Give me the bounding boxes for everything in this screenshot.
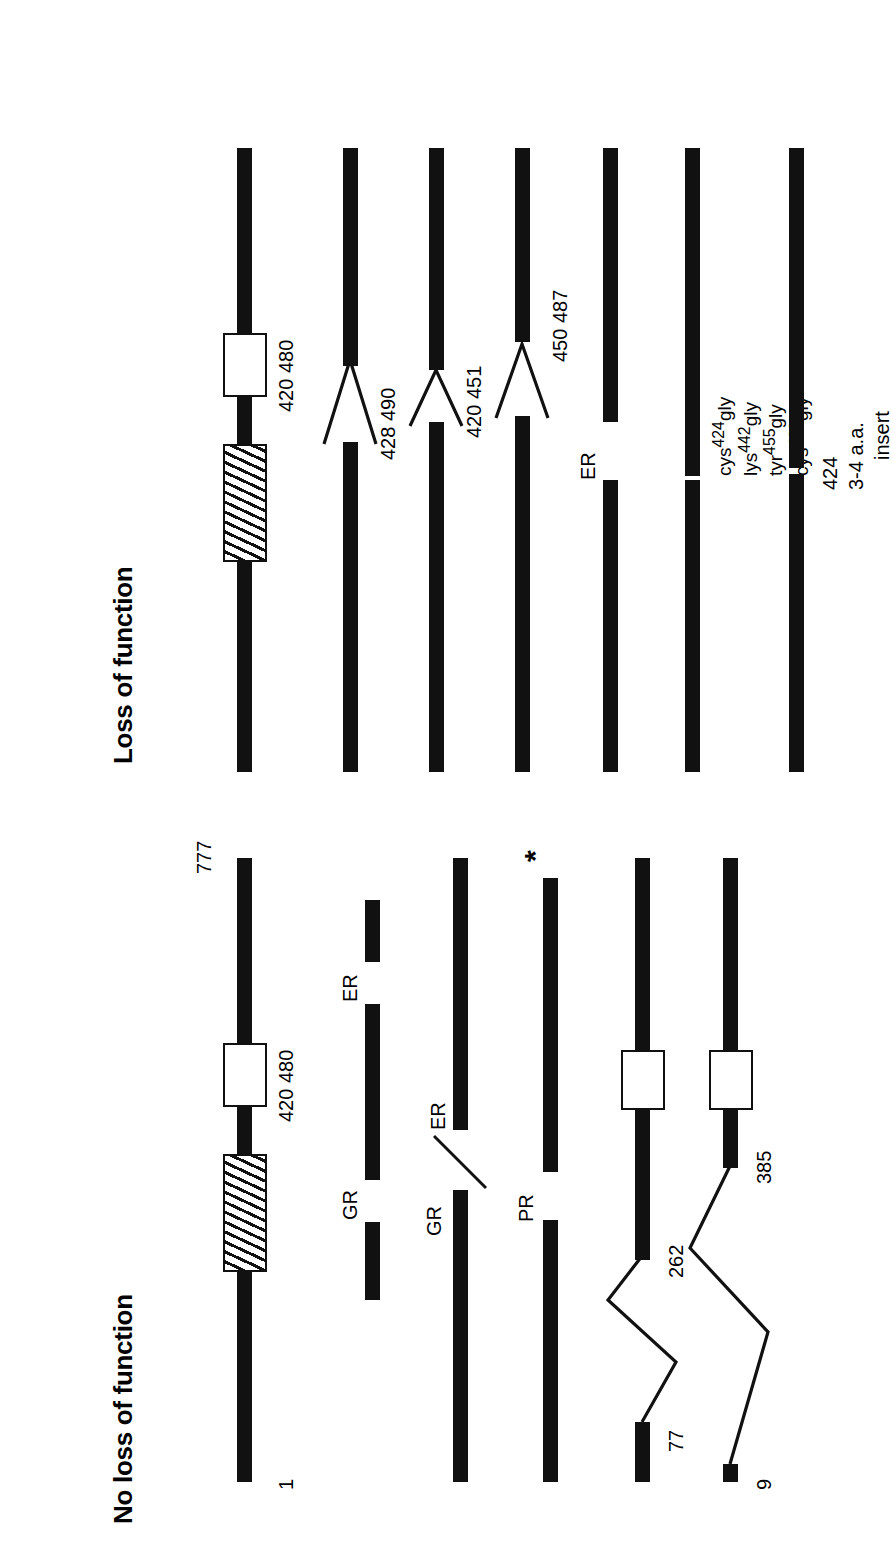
construct-segment xyxy=(635,1422,650,1482)
group-no-loss-of-function: No loss of function 1 777 420 480 GR ER … xyxy=(0,802,862,1562)
construct-segment xyxy=(515,416,530,772)
group-title-no-loss: No loss of function xyxy=(108,1294,139,1524)
label-position-385: 385 xyxy=(754,1151,775,1184)
construct-segment xyxy=(365,900,380,962)
label-c-terminus: 777 xyxy=(194,841,215,874)
construct-segment xyxy=(603,480,618,772)
hatched-domain-box xyxy=(223,444,267,562)
label-er: ER xyxy=(428,1102,449,1130)
group-title-loss: Loss of function xyxy=(108,567,139,764)
construct-segment xyxy=(515,148,530,342)
label-domain-boundaries: 420 480 xyxy=(276,340,297,412)
construct-segment xyxy=(453,1190,468,1482)
construct-segment xyxy=(685,480,700,772)
asterisk-marker-icon: * xyxy=(520,850,550,862)
construct-segment xyxy=(453,858,468,1130)
construct-segment xyxy=(685,148,700,476)
label-n-terminus: 1 xyxy=(276,1479,297,1490)
construct-segment xyxy=(365,1222,380,1300)
construct-segment xyxy=(723,1464,738,1482)
construct-segment xyxy=(343,148,358,366)
open-domain-box xyxy=(621,1050,665,1110)
construct-segment xyxy=(723,858,738,1168)
construct-row-insert-424: 424 3-4 a.a. insert xyxy=(742,0,852,782)
construct-segment xyxy=(429,422,444,772)
construct-segment xyxy=(603,148,618,422)
construct-segment xyxy=(365,1004,380,1180)
open-domain-box xyxy=(223,1043,267,1107)
construct-row-loss-reference: 420 480 xyxy=(190,0,300,782)
label-er: ER xyxy=(578,452,599,480)
construct-segment xyxy=(789,148,804,468)
hatched-domain-box xyxy=(223,1154,267,1272)
construct-segment xyxy=(429,148,444,370)
open-domain-box xyxy=(709,1050,753,1110)
construct-segment xyxy=(543,878,558,1172)
construct-row-point-mutants: cys424gly lys442gly tyr455gly cys463gly xyxy=(638,0,748,782)
deletion-zigzag-icon xyxy=(676,1156,786,1466)
label-pr: PR xyxy=(516,1194,537,1222)
construct-segment xyxy=(343,442,358,772)
construct-segment xyxy=(543,1220,558,1482)
label-insert-position: 424 xyxy=(820,457,841,490)
open-domain-box xyxy=(223,333,267,397)
label-gr: GR xyxy=(340,1190,361,1220)
label-er: ER xyxy=(340,974,361,1002)
label-position-9: 9 xyxy=(754,1479,775,1490)
label-domain-boundaries: 420 480 xyxy=(276,1050,297,1122)
group-loss-of-function: Loss of function 420 480 428 490 420 451 xyxy=(0,0,862,782)
label-insert-description-line1: 3-4 a.a. xyxy=(846,422,867,490)
construct-row-del-9-385: 9 385 xyxy=(676,802,786,1562)
construct-row-wildtype: 1 777 420 480 xyxy=(190,802,300,1562)
label-insert-description-line2: insert xyxy=(872,411,893,460)
label-gr: GR xyxy=(424,1206,445,1236)
mutation-label-1: cys424gly xyxy=(710,397,736,476)
junction-slash-icon xyxy=(424,1124,498,1194)
construct-segment xyxy=(789,474,804,772)
